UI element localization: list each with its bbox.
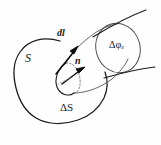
area-element-delta-S-front-arc <box>56 63 74 95</box>
label-normal-vector-n: n <box>75 56 81 66</box>
figure-container: S dl n ΔS Δφe <box>0 0 161 145</box>
label-area-element-delta-S: ΔS <box>60 102 73 113</box>
field-line-lower <box>104 67 155 78</box>
flux-tube-lower-edge <box>74 59 128 93</box>
normal-vector-arrow <box>62 67 85 84</box>
label-flux-delta-phi: Δφe <box>109 40 124 51</box>
label-flux-subscript: e <box>121 43 124 50</box>
label-flux-base: Δφ <box>109 39 121 50</box>
label-line-element-dl: dl <box>57 28 65 38</box>
label-surface-S: S <box>25 52 31 64</box>
figure-canvas <box>0 0 161 145</box>
area-element-delta-S-back-arc <box>66 63 80 93</box>
